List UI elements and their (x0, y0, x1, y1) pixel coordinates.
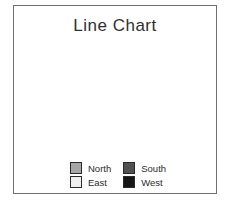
legend-item-east: East (70, 175, 111, 189)
legend-swatch-south-icon (123, 162, 135, 174)
chart-image: 0204060801001st Qtr2nd Qtr3rd Qtr4th Qtr… (0, 0, 228, 212)
legend-label-north: North (88, 163, 111, 174)
legend-label-east: East (88, 177, 107, 188)
legend-label-south: South (141, 163, 166, 174)
legend-item-west: West (123, 175, 166, 189)
legend-label-west: West (141, 177, 162, 188)
legend-swatch-west-icon (123, 176, 135, 188)
legend-item-south: South (123, 161, 166, 175)
legend-item-north: North (70, 161, 111, 175)
chart-title: Line Chart (13, 16, 217, 36)
legend: North East South West (70, 161, 166, 189)
legend-swatch-north-icon (70, 162, 82, 174)
legend-swatch-east-icon (70, 176, 82, 188)
